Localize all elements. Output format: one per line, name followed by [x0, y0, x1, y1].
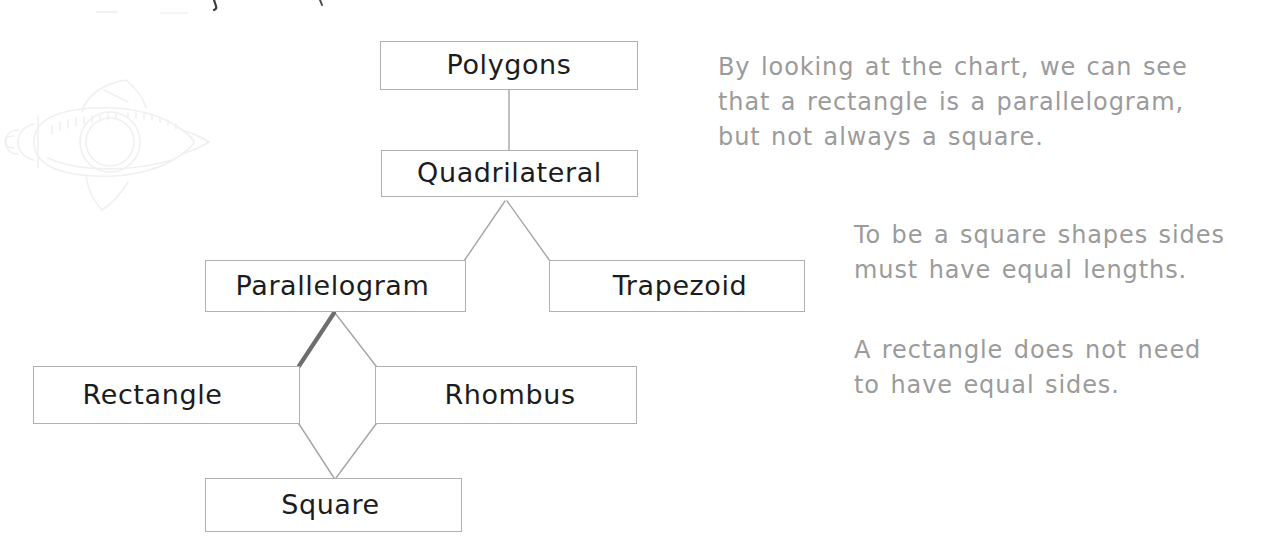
edge-rhombus-square [336, 424, 376, 478]
node-trapezoid-label: Trapezoid [613, 272, 748, 299]
edge-parallelogram-rhombus [335, 313, 376, 366]
edge-quadrilateral-trapezoid [507, 201, 550, 261]
note-paragraph-3: A rectangle does not need to have equal … [854, 333, 1283, 403]
note-paragraph-1: By looking at the chart, we can see that… [718, 50, 1283, 155]
node-rhombus-label: Rhombus [444, 381, 575, 408]
node-square[interactable]: Square [205, 478, 462, 532]
rocket-doodle-icon [4, 72, 214, 212]
node-quadrilateral[interactable]: Quadrilateral [381, 150, 638, 197]
node-quadrilateral-label: Quadrilateral [417, 159, 602, 186]
note-paragraph-2: To be a square shapes sides must have eq… [854, 218, 1283, 288]
worksheet-canvas: Polygons Quadrilateral Parallelogram Tra… [0, 0, 1283, 545]
edge-quadrilateral-parallelogram [464, 201, 505, 261]
node-square-label: Square [281, 491, 380, 518]
edge-parallelogram-rectangle-highlight [299, 313, 334, 366]
node-rectangle[interactable]: Rectangle [33, 366, 300, 424]
node-trapezoid[interactable]: Trapezoid [549, 260, 805, 312]
node-parallelogram[interactable]: Parallelogram [205, 260, 466, 312]
edge-rectangle-square [299, 424, 334, 478]
node-polygons[interactable]: Polygons [380, 41, 638, 90]
cropped-text-marks [0, 0, 1283, 16]
node-parallelogram-label: Parallelogram [236, 272, 430, 299]
node-rectangle-label: Rectangle [83, 381, 223, 408]
node-polygons-label: Polygons [447, 51, 572, 78]
node-rhombus[interactable]: Rhombus [375, 366, 637, 424]
